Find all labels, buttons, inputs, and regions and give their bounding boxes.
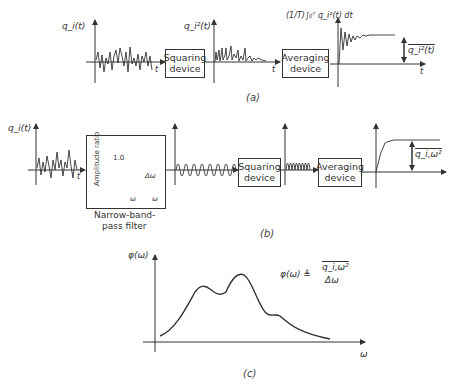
squared-sinusoid (286, 163, 310, 170)
psd-x-axis-label: ω (360, 350, 368, 359)
amplitude-ratio-label: Amplitude ratio (93, 132, 101, 186)
block-line1: Squaring (164, 53, 207, 64)
averaging-device-b: Averaging device (318, 158, 362, 187)
squared-signal-label-a: q_i²(t) (184, 22, 211, 31)
block-line1: Squaring (238, 162, 281, 173)
squaring-device-a: Squaring device (165, 49, 205, 78)
diagram-root: q_i(t) t Squaring device q_i²(t) t Avera… (0, 0, 453, 388)
diagram-lines (0, 0, 453, 388)
noise-signal-b (37, 150, 77, 178)
filter-title-line1: Narrow-band- (94, 210, 155, 220)
time-axis-label-a2: t (272, 66, 275, 74)
band-mean-square-label: q_i,ω² (415, 150, 442, 159)
filter-x-axis-label: ω (152, 195, 158, 203)
psd-curve (160, 274, 330, 339)
bandwidth-label: Δω (145, 172, 156, 180)
time-axis-label-a1: t (155, 66, 158, 74)
mean-square-label: q_i²(t) (408, 46, 435, 55)
input-signal-label-b: q_i(t) (8, 124, 31, 133)
caption-b: (b) (260, 228, 274, 239)
psd-definition-lhs: φ(ω) ≜ (280, 270, 311, 279)
noise-signal-a (96, 47, 152, 72)
psd-definition-numerator: q_i,ω² (322, 263, 349, 272)
integral-label: (1/T)∫₀ᵀ q_i²(t) dt (286, 12, 353, 20)
block-line1: Averaging (282, 53, 330, 64)
time-axis-label-a3: t (420, 68, 423, 76)
block-line2: device (324, 173, 355, 184)
caption-c: (c) (243, 368, 256, 379)
averaged-signal-a (339, 28, 395, 64)
input-signal-label-a: q_i(t) (62, 22, 85, 31)
caption-a: (a) (246, 92, 260, 103)
filter-y-tick: 1.0 (113, 154, 124, 162)
filter-title-line2: pass filter (102, 221, 146, 231)
psd-y-axis-label: φ(ω) (128, 251, 149, 260)
block-line1: Averaging (316, 162, 364, 173)
squaring-device-b: Squaring device (238, 158, 281, 187)
block-line2: device (244, 173, 275, 184)
block-line2: device (290, 64, 321, 75)
block-line2: device (169, 64, 200, 75)
center-freq-label: ω (130, 195, 136, 203)
psd-definition-denominator: Δω (325, 276, 339, 285)
averaging-device-a: Averaging device (282, 49, 329, 78)
squared-signal-a (215, 46, 266, 62)
time-axis-label-b: t (77, 173, 80, 181)
